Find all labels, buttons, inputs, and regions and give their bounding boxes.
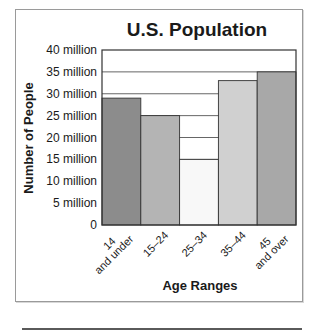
y-tick-label: 5 million [53, 196, 97, 210]
x-tick-label: 35–44 [218, 229, 248, 259]
y-tick-label: 20 million [46, 131, 97, 145]
x-tick-label: 15–24 [140, 229, 170, 259]
x-tick-label: 45and over [244, 225, 291, 272]
y-tick-label: 35 million [46, 65, 97, 79]
bar [257, 72, 296, 225]
y-axis-label: Number of People [21, 82, 36, 193]
y-tick-label: 15 million [46, 152, 97, 166]
x-tick-label-line: 25–34 [179, 229, 209, 259]
y-tick-label: 30 million [46, 87, 97, 101]
bar [180, 159, 219, 225]
y-tick-label: 0 [90, 218, 97, 232]
y-tick-label: 10 million [46, 174, 97, 188]
bar [141, 116, 180, 225]
x-tick-label-line: 35–44 [218, 229, 248, 259]
x-axis-label: Age Ranges [162, 278, 237, 293]
bar [102, 98, 141, 225]
x-tick-label-line: 15–24 [140, 229, 170, 259]
chart-title: U.S. Population [127, 19, 267, 40]
bar-chart: U.S. Population Number of People Age Ran… [0, 0, 311, 330]
x-tick-label-line: and under [92, 232, 136, 276]
y-tick-label: 40 million [46, 43, 97, 57]
x-tick-label-line: and over [252, 232, 291, 271]
y-tick-label: 25 million [46, 109, 97, 123]
x-tick-label: 14and under [84, 225, 136, 277]
bar [218, 81, 257, 225]
x-tick-label: 25–34 [179, 229, 209, 259]
